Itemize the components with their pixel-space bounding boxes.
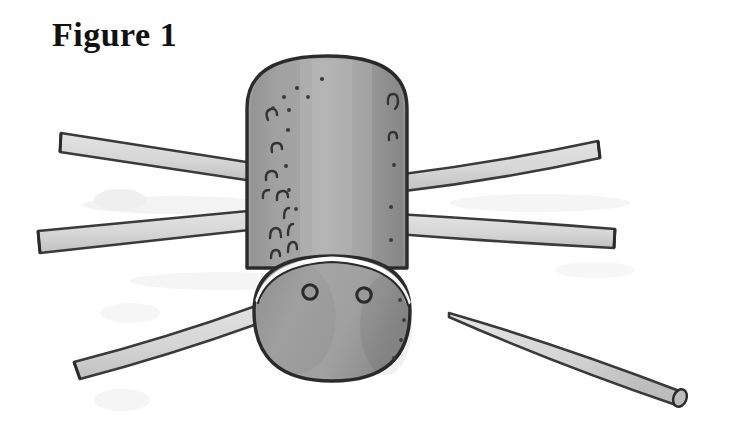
leg-upper-right (396, 141, 600, 192)
figure-page: Figure 1 (0, 0, 731, 434)
leg-upper-left (60, 133, 259, 182)
head (254, 256, 412, 381)
spider-illustration (0, 0, 731, 434)
leg-detached-right (449, 313, 689, 409)
leg-lower-right (396, 214, 615, 248)
eye-right (357, 288, 371, 302)
eye-left (303, 285, 317, 299)
leg-lower-left (38, 210, 258, 253)
